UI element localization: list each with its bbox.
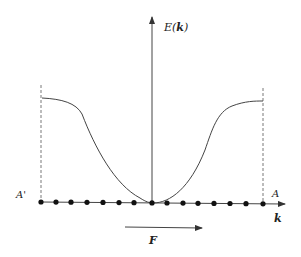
energy-axis-label: E(k) [163, 21, 188, 34]
lattice-points [38, 199, 265, 206]
force-label: F [148, 234, 158, 247]
band-diagram: E(k) k A' A F [0, 0, 301, 257]
left-boundary-label: A' [15, 189, 26, 200]
k-axis-label: k [274, 212, 282, 225]
force-arrow [125, 227, 202, 228]
right-boundary-label: A [271, 188, 279, 199]
